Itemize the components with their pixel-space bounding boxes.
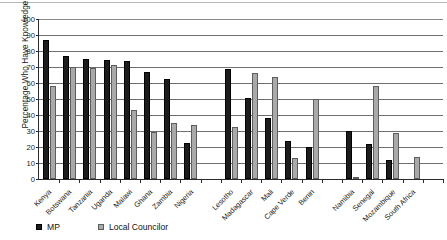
bar-mp: [83, 59, 89, 179]
bar-group: [62, 19, 82, 179]
x-axis-tick-mark: [261, 179, 262, 183]
x-axis-tick-mark: [423, 179, 424, 183]
y-axis-tick-label: 70: [27, 63, 35, 72]
bar-group: [305, 19, 325, 179]
x-axis-tick-mark: [140, 179, 141, 183]
x-axis-tick-mark: [180, 179, 181, 183]
bar-chart: Percentage Who Have Knowledge 0102030405…: [0, 0, 447, 240]
bar-group: [42, 19, 62, 179]
bar-mp: [386, 160, 392, 179]
bar-group: [426, 19, 446, 179]
bar-local-councilor: [272, 77, 278, 179]
chart-legend: MPLocal Councilor: [36, 222, 206, 232]
legend-swatch-icon: [36, 224, 42, 230]
bar-group: [365, 19, 385, 179]
bar-local-councilor: [191, 125, 197, 179]
bar-mp: [63, 56, 69, 179]
scan-line-artifact: [0, 2, 447, 3]
x-axis-tick-mark: [241, 179, 242, 183]
x-axis-tick-mark: [322, 179, 323, 183]
legend-swatch-icon: [98, 224, 104, 230]
legend-label: MP: [47, 222, 60, 232]
y-axis-tick-mark: [36, 35, 39, 36]
bar-mp: [164, 79, 170, 179]
bar-mp: [225, 69, 231, 179]
bar-local-councilor: [353, 177, 359, 179]
y-axis-tick-label: 60: [27, 79, 35, 88]
bar-local-councilor: [414, 157, 420, 179]
x-axis-tick-mark: [281, 179, 282, 183]
bar-group: [224, 19, 244, 179]
bar-mp: [346, 131, 352, 179]
bar-mp: [124, 61, 130, 179]
bar-group: [284, 19, 304, 179]
y-axis-tick-mark: [36, 179, 39, 180]
bar-group: [325, 19, 345, 179]
bar-mp: [306, 147, 312, 179]
legend-label: Local Councilor: [109, 222, 168, 232]
y-axis-tick-label: 0: [31, 175, 35, 184]
x-axis-tick-mark: [443, 179, 444, 183]
bar-local-councilor: [171, 123, 177, 179]
bar-local-councilor: [393, 133, 399, 179]
y-axis-tick-label: 40: [27, 111, 35, 120]
y-axis-tick-mark: [36, 163, 39, 164]
bar-group: [103, 19, 123, 179]
bar-local-councilor: [292, 158, 298, 179]
legend-item-lc[interactable]: Local Councilor: [98, 222, 168, 232]
x-axis-tick-mark: [362, 179, 363, 183]
bar-group: [143, 19, 163, 179]
bar-group: [163, 19, 183, 179]
y-axis-tick-mark: [36, 83, 39, 84]
y-axis-tick-mark: [36, 147, 39, 148]
bar-mp: [366, 144, 372, 179]
bar-mp: [245, 98, 251, 179]
y-axis-tick-mark: [36, 115, 39, 116]
x-axis-tick-mark: [100, 179, 101, 183]
x-axis-tick-mark: [382, 179, 383, 183]
bar-mp: [265, 118, 271, 179]
y-axis-tick-mark: [36, 99, 39, 100]
bar-mp: [144, 72, 150, 179]
x-axis-tick-mark: [221, 179, 222, 183]
bar-group: [264, 19, 284, 179]
bar-group: [123, 19, 143, 179]
bar-mp: [285, 141, 291, 179]
y-axis-tick-label: 90: [27, 31, 35, 40]
legend-item-mp[interactable]: MP: [36, 222, 60, 232]
bar-group: [183, 19, 203, 179]
y-axis-tick-label: 80: [27, 47, 35, 56]
bar-group: [82, 19, 102, 179]
x-axis-tick-mark: [120, 179, 121, 183]
bar-local-councilor: [252, 73, 258, 179]
y-axis-tick-label: 100: [22, 15, 35, 24]
bar-mp: [104, 60, 110, 179]
x-axis-tick-mark: [79, 179, 80, 183]
bar-local-councilor: [232, 127, 238, 179]
y-axis-tick-mark: [36, 51, 39, 52]
bar-local-councilor: [131, 110, 137, 179]
bar-group: [406, 19, 426, 179]
y-axis-tick-label: 20: [27, 143, 35, 152]
bar-mp: [184, 143, 190, 179]
y-axis-tick-mark: [36, 67, 39, 68]
plot-area: 0102030405060708090100 KenyaBotswanaTanz…: [38, 19, 443, 180]
x-axis-tick-mark: [302, 179, 303, 183]
bar-local-councilor: [151, 132, 157, 179]
bar-local-councilor: [111, 65, 117, 179]
bar-mp: [43, 40, 49, 179]
bar-group: [385, 19, 405, 179]
bar-local-councilor: [50, 86, 56, 179]
bar-local-councilor: [313, 99, 319, 179]
bar-group: [204, 19, 224, 179]
y-axis-tick-mark: [36, 131, 39, 132]
bar-group: [244, 19, 264, 179]
x-axis-tick-mark: [59, 179, 60, 183]
bar-local-councilor: [90, 68, 96, 179]
bar-group: [345, 19, 365, 179]
y-axis-tick-mark: [36, 19, 39, 20]
y-axis-tick-label: 30: [27, 127, 35, 136]
y-axis-tick-label: 10: [27, 159, 35, 168]
x-axis-tick-mark: [403, 179, 404, 183]
x-axis-tick-mark: [201, 179, 202, 183]
